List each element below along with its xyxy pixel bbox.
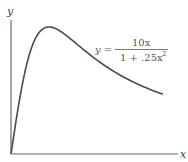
- x-axis-label: x: [180, 148, 187, 161]
- y-axis-label: y: [6, 5, 14, 18]
- equation-numerator: 10x: [132, 37, 151, 48]
- equation-lhs: y =: [94, 44, 112, 55]
- equation-label: y = 10x 1 + .25x 2: [94, 37, 168, 63]
- equation-denominator: 1 + .25x: [120, 52, 163, 63]
- equation-exponent: 2: [162, 50, 166, 58]
- function-plot: x y y = 10x 1 + .25x 2: [0, 0, 188, 162]
